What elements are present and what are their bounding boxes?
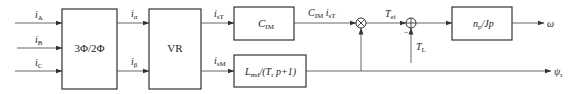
mech-block: np/Jp [452,7,512,40]
svg-text:iβ: iβ [131,56,138,69]
svg-text:ψr: ψr [554,66,563,79]
transform-block: 3Φ/2Φ [62,9,117,89]
minus-sign: − [404,28,409,37]
signal-cim-out: CIM isT [294,7,356,23]
input-iB: iB [17,34,62,48]
vr-block: VR [149,9,201,89]
svg-text:Tei: Tei [385,8,396,21]
svg-text:iB: iB [35,34,43,47]
signal-Tei: Tei [366,8,406,23]
svg-text:iα: iα [131,8,138,21]
input-iA: iA [15,9,62,23]
svg-text:isM: isM [214,55,227,68]
input-iC: iC [15,57,62,71]
output-omega: ω [512,18,554,29]
signal-TL: TL − [404,28,426,63]
cim-block: CIM [234,7,294,40]
signal-i-beta: iβ [117,56,149,71]
summer-junction [406,18,416,28]
svg-text:3Φ/2Φ: 3Φ/2Φ [74,42,104,54]
signal-i-alpha: iα [117,8,149,23]
lmd-block: Lmd/(Tr p+1) [234,55,306,87]
signal-i-sM: isM [201,55,234,71]
svg-text:CIM isT: CIM isT [308,7,336,20]
signal-psi-r: ψr [306,28,563,79]
svg-text:VR: VR [167,42,183,54]
svg-text:iC: iC [35,57,43,70]
svg-text:isT: isT [214,8,225,21]
block-diagram: iA iB iC 3Φ/2Φ iα iβ VR isT CIM CIM isT [0,0,570,94]
signal-i-sT: isT [201,8,234,23]
svg-text:TL: TL [416,41,426,54]
svg-text:ω: ω [547,18,554,29]
svg-text:iA: iA [35,9,43,22]
multiplier-junction [356,18,366,28]
